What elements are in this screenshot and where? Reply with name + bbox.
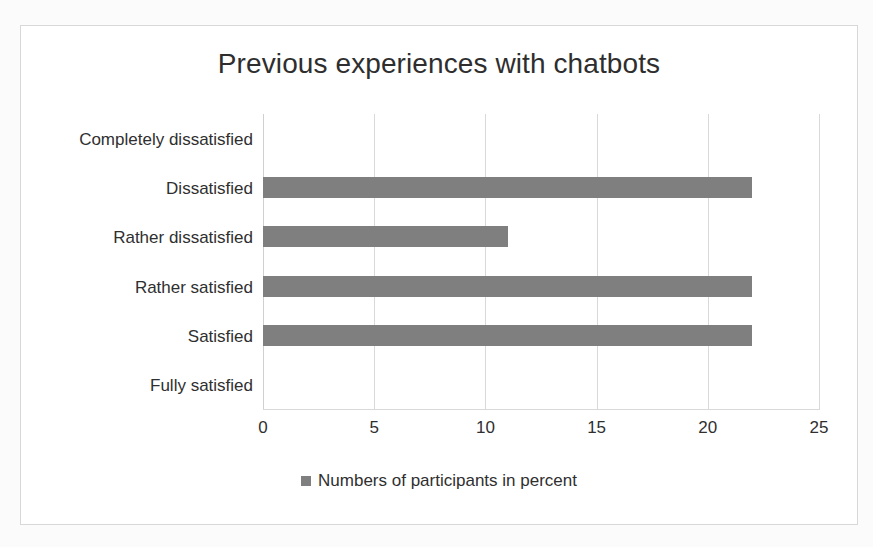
x-axis-line: [263, 409, 820, 410]
chart-legend: Numbers of participants in percent: [21, 471, 857, 491]
legend-swatch-icon: [301, 476, 311, 486]
gridline: [819, 114, 820, 409]
bar-row: [263, 360, 819, 409]
x-axis-tick-label: 10: [476, 418, 495, 438]
chart-container: Previous experiences with chatbots Compl…: [20, 25, 858, 525]
y-axis-category-labels: Completely dissatisfied Dissatisfied Rat…: [21, 114, 253, 409]
y-axis-tick-label: Completely dissatisfied: [23, 131, 253, 148]
legend-label: Numbers of participants in percent: [318, 471, 577, 491]
y-axis-tick-label: Rather satisfied: [23, 279, 253, 296]
bar[interactable]: [263, 226, 508, 247]
bar-row: [263, 311, 819, 360]
plot-area: [263, 114, 819, 409]
x-axis-tick-label: 0: [258, 418, 267, 438]
x-axis-tick-label: 25: [810, 418, 829, 438]
y-axis-tick-label: Fully satisfied: [23, 377, 253, 394]
x-axis-tick-label: 20: [698, 418, 717, 438]
x-axis-tick-label: 5: [369, 418, 378, 438]
chart-title: Previous experiences with chatbots: [21, 48, 857, 80]
x-axis-tick-labels: 0510152025: [263, 418, 819, 444]
bar-row: [263, 163, 819, 212]
bar-row: [263, 212, 819, 261]
y-axis-tick-label: Satisfied: [23, 328, 253, 345]
y-axis-tick-label: Dissatisfied: [23, 180, 253, 197]
bar-row: [263, 114, 819, 163]
bar-row: [263, 262, 819, 311]
bar[interactable]: [263, 325, 752, 346]
bar[interactable]: [263, 276, 752, 297]
y-axis-tick-label: Rather dissatisfied: [23, 229, 253, 246]
x-axis-tick-label: 15: [587, 418, 606, 438]
bar[interactable]: [263, 177, 752, 198]
